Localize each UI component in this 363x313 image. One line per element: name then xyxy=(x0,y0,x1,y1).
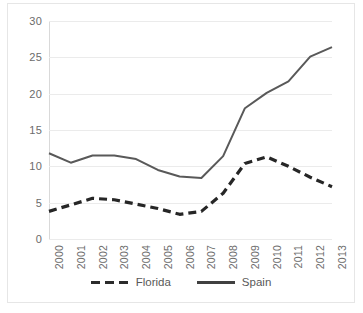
y-tick-label-5: 5 xyxy=(36,197,42,209)
legend-swatch-florida xyxy=(91,281,129,284)
x-tick-label-2004: 2004 xyxy=(140,245,152,269)
legend-item-florida: Florida xyxy=(91,276,171,288)
x-tick-label-2009: 2009 xyxy=(249,245,261,269)
plot-area: 051015202530 200020012002200320042005200… xyxy=(49,21,332,239)
x-tick-label-2010: 2010 xyxy=(271,245,283,269)
legend-label-spain: Spain xyxy=(242,276,271,288)
x-tick-label-2000: 2000 xyxy=(53,245,65,269)
chart-legend: Florida Spain xyxy=(8,276,354,288)
gridline-0 xyxy=(49,239,332,240)
series-line-florida xyxy=(49,157,332,214)
series-lines xyxy=(49,21,332,239)
x-tick-label-2012: 2012 xyxy=(314,245,326,269)
y-tick-label-0: 0 xyxy=(36,233,42,245)
legend-label-florida: Florida xyxy=(136,276,171,288)
legend-item-spain: Spain xyxy=(197,276,271,288)
y-tick-label-10: 10 xyxy=(29,160,42,172)
y-tick-label-30: 30 xyxy=(29,15,42,27)
y-tick-label-15: 15 xyxy=(29,124,42,136)
x-tick-label-2007: 2007 xyxy=(205,245,217,269)
x-tick-label-2008: 2008 xyxy=(227,245,239,269)
x-tick-label-2005: 2005 xyxy=(162,245,174,269)
x-tick-label-2001: 2001 xyxy=(75,245,87,269)
series-line-spain xyxy=(49,47,332,178)
x-tick-label-2002: 2002 xyxy=(97,245,109,269)
chart-container: 051015202530 200020012002200320042005200… xyxy=(7,3,355,303)
x-tick-label-2013: 2013 xyxy=(336,245,348,269)
y-tick-label-25: 25 xyxy=(29,51,42,63)
x-tick-label-2003: 2003 xyxy=(118,245,130,269)
x-tick-label-2006: 2006 xyxy=(184,245,196,269)
legend-swatch-spain xyxy=(197,281,235,284)
x-tick-label-2011: 2011 xyxy=(292,245,304,268)
y-tick-label-20: 20 xyxy=(29,88,42,100)
